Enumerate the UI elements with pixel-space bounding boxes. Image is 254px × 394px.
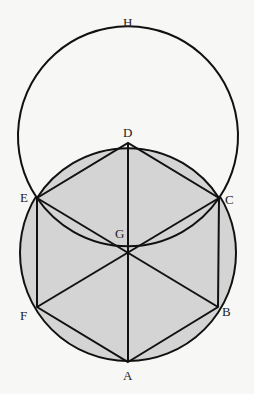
label-g: G <box>115 226 124 241</box>
label-f: F <box>20 308 27 323</box>
label-b: B <box>222 304 231 319</box>
label-h: H <box>123 15 132 30</box>
label-c: C <box>225 192 234 207</box>
label-d: D <box>123 125 132 140</box>
label-a: A <box>123 368 133 383</box>
label-e: E <box>20 190 28 205</box>
geometry-diagram: H D E C G F B A <box>0 0 254 394</box>
